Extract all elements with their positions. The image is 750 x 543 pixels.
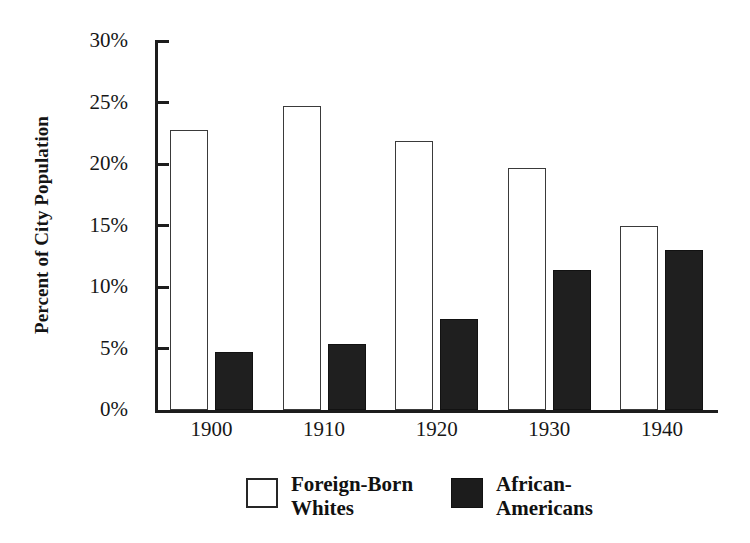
y-axis-tick-label: 0%: [28, 399, 128, 420]
filled-square-icon: [451, 478, 483, 508]
y-axis-tick-label: 30%: [28, 30, 128, 51]
x-axis-line: [155, 410, 718, 413]
legend-label-line1: African-: [496, 472, 593, 496]
bar-1920-foreign-born-whites: [395, 141, 433, 410]
y-axis-tick-labels: 30%25%20%15%10%5%0%: [28, 0, 128, 543]
bar-1930-foreign-born-whites: [508, 168, 546, 410]
x-axis-tick-label: 1940: [641, 419, 683, 440]
bar-1920-african-americans: [440, 319, 478, 410]
y-axis-tick-mark: [155, 224, 169, 227]
bar-chart: Percent of City Population 30%25%20%15%1…: [0, 0, 750, 543]
x-axis-tick-label: 1920: [416, 419, 458, 440]
x-axis-tick-label: 1930: [528, 419, 570, 440]
y-axis-tick-label: 10%: [28, 276, 128, 297]
plot-area: [155, 41, 718, 410]
bar-1910-african-americans: [328, 344, 366, 410]
legend-entry: African-Americans: [451, 472, 593, 520]
legend-label-line2: Americans: [496, 496, 593, 520]
y-axis-tick-label: 20%: [28, 153, 128, 174]
legend-label: African-Americans: [496, 472, 593, 520]
y-axis-tick-mark: [155, 347, 169, 350]
y-axis-tick-mark: [155, 40, 169, 43]
y-axis-tick-mark: [155, 163, 169, 166]
bar-1900-african-americans: [215, 352, 253, 410]
legend-label: Foreign-BornWhites: [291, 472, 413, 520]
x-axis-tick-label: 1900: [191, 419, 233, 440]
legend-label-line2: Whites: [291, 496, 413, 520]
bar-1900-foreign-born-whites: [170, 130, 208, 410]
y-axis-tick-label: 5%: [28, 338, 128, 359]
chart-legend: Foreign-BornWhitesAfrican-Americans: [0, 470, 750, 540]
bar-1930-african-americans: [553, 270, 591, 410]
y-axis-tick-label: 25%: [28, 92, 128, 113]
y-axis-tick-mark: [155, 286, 169, 289]
bar-1940-african-americans: [665, 250, 703, 410]
y-axis-tick-mark: [155, 101, 169, 104]
legend-entry: Foreign-BornWhites: [246, 472, 413, 520]
legend-label-line1: Foreign-Born: [291, 472, 413, 496]
bar-1910-foreign-born-whites: [283, 106, 321, 410]
y-axis-tick-label: 15%: [28, 215, 128, 236]
open-square-icon: [246, 478, 278, 508]
bar-1940-foreign-born-whites: [620, 226, 658, 411]
x-axis-tick-label: 1910: [303, 419, 345, 440]
